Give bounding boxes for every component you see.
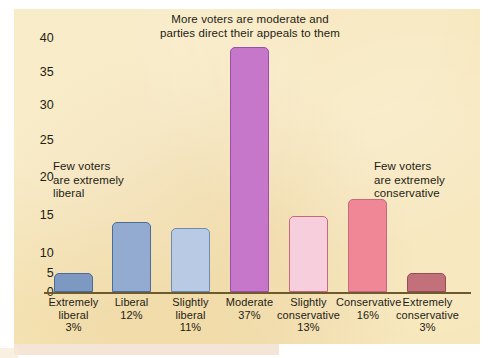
bar-chart: 40 35 30 25 20 15 10 5 0 Extremely liber…: [0, 0, 489, 358]
annotation-line2: are extremely: [53, 174, 153, 188]
y-tick-15: 15: [20, 208, 54, 222]
y-tick-30: 30: [20, 98, 54, 112]
x-label-value: 13%: [272, 321, 345, 334]
y-tick-10: 10: [20, 246, 54, 260]
x-label-moderate: Moderate 37%: [219, 296, 280, 321]
annotation-line2: are extremely: [374, 174, 478, 188]
bar-extremely-liberal: [54, 273, 93, 292]
annotation-line1: Few voters: [53, 160, 153, 174]
y-tick-25: 25: [20, 133, 54, 147]
x-label-line2: conservative: [391, 309, 464, 322]
y-tick-40: 40: [20, 31, 54, 45]
y-tick-35: 35: [20, 65, 54, 79]
x-label-line1: Liberal: [101, 296, 162, 309]
annotation-line1: More voters are moderate and: [148, 13, 352, 27]
y-tick-5: 5: [20, 266, 54, 280]
annotation-few-voters-extremely-liberal: Few voters are extremely liberal: [53, 160, 153, 201]
x-label-value: 12%: [101, 309, 162, 322]
annotation-line3: liberal: [53, 187, 153, 201]
x-label-line1: Extremely: [43, 296, 104, 309]
x-label-line2: liberal: [160, 309, 221, 322]
x-axis-line: [44, 292, 471, 294]
x-label-line1: Slightly: [272, 296, 345, 309]
x-label-slightly-liberal: Slightly liberal 11%: [160, 296, 221, 334]
x-label-extremely-liberal: Extremely liberal 3%: [43, 296, 104, 334]
x-label-line2: conservative: [272, 309, 345, 322]
bar-conservative: [348, 199, 387, 292]
bar-slightly-liberal: [171, 228, 210, 292]
x-label-value: 3%: [391, 321, 464, 334]
annotation-few-voters-extremely-conservative: Few voters are extremely conservative: [374, 160, 478, 201]
x-label-value: 37%: [219, 309, 280, 322]
bar-liberal: [112, 222, 151, 292]
y-tick-20: 20: [20, 170, 54, 184]
annotation-line2: parties direct their appeals to them: [148, 27, 352, 41]
annotation-line3: conservative: [374, 187, 478, 201]
x-label-value: 3%: [43, 321, 104, 334]
x-label-line1: Slightly: [160, 296, 221, 309]
chart-screenshot: 40 35 30 25 20 15 10 5 0 Extremely liber…: [0, 0, 489, 358]
bar-moderate: [230, 47, 269, 292]
bar-slightly-conservative: [289, 216, 328, 292]
x-label-liberal: Liberal 12%: [101, 296, 162, 321]
x-label-line2: liberal: [43, 309, 104, 322]
x-label-extremely-conservative: Extremely conservative 3%: [391, 296, 464, 334]
x-label-value: 11%: [160, 321, 221, 334]
bar-extremely-conservative: [407, 273, 446, 292]
annotation-more-voters-moderate: More voters are moderate and parties dir…: [148, 13, 352, 40]
x-label-slightly-conservative: Slightly conservative 13%: [272, 296, 345, 334]
x-label-line1: Extremely: [391, 296, 464, 309]
x-label-line1: Moderate: [219, 296, 280, 309]
annotation-line1: Few voters: [374, 160, 478, 174]
